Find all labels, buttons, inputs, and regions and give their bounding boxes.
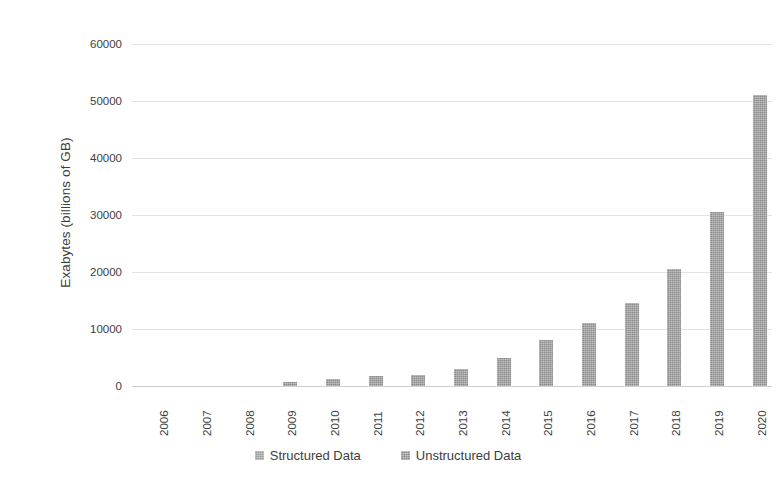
bar-group — [431, 44, 474, 386]
bar — [539, 340, 553, 386]
x-axis-tick-labels: 2006200720082009201020112012201320142015… — [132, 392, 772, 444]
legend-item[interactable]: Unstructured Data — [401, 448, 522, 463]
bar — [667, 269, 681, 386]
bar — [582, 323, 596, 386]
x-tick-label-2011: 2011 — [372, 411, 384, 436]
legend-label: Unstructured Data — [416, 448, 522, 463]
bar — [625, 303, 639, 386]
y-tick-label-0: 0 — [52, 380, 122, 392]
bar-group — [687, 44, 730, 386]
legend-swatch-icon — [401, 451, 410, 460]
x-tick-label-2006: 2006 — [158, 410, 170, 436]
x-tick-label-2015: 2015 — [542, 410, 554, 436]
bar-group — [260, 44, 303, 386]
bar-group — [601, 44, 644, 386]
bar — [454, 369, 468, 386]
x-tick-label-2012: 2012 — [414, 410, 426, 436]
bar-group — [175, 44, 218, 386]
bar-group — [516, 44, 559, 386]
x-tick-label-2009: 2009 — [286, 410, 298, 436]
bar-group — [473, 44, 516, 386]
bar-group — [644, 44, 687, 386]
legend-item[interactable]: Structured Data — [255, 448, 361, 463]
bar-group — [217, 44, 260, 386]
x-tick-label-2014: 2014 — [500, 410, 512, 436]
y-axis-title: Exabytes (billions of GB) — [58, 68, 73, 358]
gridline-0 — [132, 386, 772, 387]
bar-chart-figure: Exabytes (billions of GB) 01000020000300… — [0, 0, 776, 498]
legend-label: Structured Data — [270, 448, 361, 463]
x-tick-label-2019: 2019 — [713, 410, 725, 436]
x-tick-label-2008: 2008 — [244, 410, 256, 436]
bar-group — [345, 44, 388, 386]
bar — [411, 375, 425, 386]
bar — [710, 212, 724, 386]
plot-area — [132, 44, 772, 386]
bar-group — [303, 44, 346, 386]
legend-swatch-icon — [255, 451, 264, 460]
bar-group — [388, 44, 431, 386]
bar-group — [132, 44, 175, 386]
x-tick-label-2020: 2020 — [756, 410, 768, 436]
x-tick-label-2007: 2007 — [201, 410, 213, 436]
bar-group — [729, 44, 772, 386]
x-tick-label-2013: 2013 — [457, 410, 469, 436]
bar — [753, 95, 767, 386]
x-tick-label-2018: 2018 — [670, 410, 682, 436]
y-tick-label-60000: 60000 — [52, 38, 122, 50]
bars-layer — [132, 44, 772, 386]
bar — [369, 376, 383, 386]
bar — [283, 382, 297, 386]
x-tick-label-2017: 2017 — [628, 410, 640, 436]
x-tick-label-2010: 2010 — [329, 410, 341, 436]
bar-group — [559, 44, 602, 386]
bar — [497, 358, 511, 386]
bar — [326, 379, 340, 386]
x-tick-label-2016: 2016 — [585, 410, 597, 436]
chart-legend: Structured DataUnstructured Data — [0, 448, 776, 463]
